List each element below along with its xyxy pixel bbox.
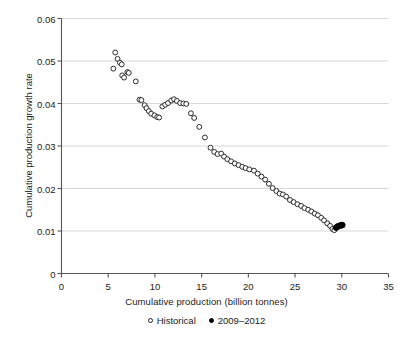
gridlines-group bbox=[62, 19, 389, 232]
data-point-historical bbox=[197, 124, 202, 129]
data-point-historical bbox=[263, 177, 268, 182]
data-point-historical bbox=[113, 50, 118, 55]
data-point-historical bbox=[188, 111, 193, 116]
x-tick-label: 0 bbox=[59, 281, 64, 292]
x-axis-title: Cumulative production (billion tonnes) bbox=[0, 296, 413, 307]
x-tick-label: 5 bbox=[106, 281, 111, 292]
x-tick-label: 35 bbox=[383, 281, 394, 292]
data-point-2009-2012 bbox=[339, 222, 345, 228]
x-tick-label: 15 bbox=[196, 281, 207, 292]
data-point-historical bbox=[119, 62, 124, 67]
data-point-historical bbox=[157, 115, 162, 120]
legend-entry: Historical bbox=[148, 315, 196, 326]
data-point-historical bbox=[247, 167, 252, 172]
series-2009-2012-points bbox=[333, 222, 345, 230]
data-point-historical bbox=[133, 79, 138, 84]
legend-label: 2009–2012 bbox=[218, 315, 266, 326]
data-point-historical bbox=[139, 98, 144, 103]
legend-label: Historical bbox=[157, 315, 196, 326]
scatter-chart-figure: 00.010.020.030.040.050.06 05101520253035… bbox=[0, 0, 413, 348]
open-circle-icon bbox=[148, 318, 153, 323]
data-point-historical bbox=[202, 135, 207, 140]
tick-marks-group bbox=[58, 19, 389, 278]
data-point-historical bbox=[126, 70, 131, 75]
data-point-historical bbox=[111, 66, 116, 71]
data-point-historical bbox=[266, 181, 271, 186]
y-axis-title: Cumulative production growth rate bbox=[23, 26, 34, 266]
legend-entry: 2009–2012 bbox=[209, 315, 266, 326]
x-tick-label: 10 bbox=[150, 281, 161, 292]
x-tick-label: 30 bbox=[336, 281, 347, 292]
series-historical-points bbox=[111, 50, 337, 233]
filled-circle-icon bbox=[209, 318, 214, 323]
y-tick-label: 0.06 bbox=[8, 13, 56, 24]
x-tick-label: 20 bbox=[243, 281, 254, 292]
data-point-historical bbox=[208, 145, 213, 150]
x-tick-label: 25 bbox=[290, 281, 301, 292]
y-tick-label: 0 bbox=[8, 268, 56, 279]
chart-legend: Historical2009–2012 bbox=[0, 315, 413, 326]
data-point-historical bbox=[184, 101, 189, 106]
data-point-historical bbox=[122, 75, 127, 80]
data-point-historical bbox=[192, 116, 197, 121]
